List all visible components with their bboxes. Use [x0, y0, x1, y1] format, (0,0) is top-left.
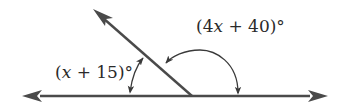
angle-diagram: (x + 15)° (4x + 40)° [0, 0, 342, 111]
large-angle-label-open: (4 [196, 16, 213, 36]
large-angle-label-rest: + 40)° [223, 16, 285, 36]
large-angle-label-variable: x [213, 16, 223, 36]
ray-line [103, 18, 192, 96]
small-angle-label-variable: x [62, 62, 72, 82]
small-angle-label: (x + 15)° [55, 64, 133, 81]
small-angle-label-open: ( [55, 62, 62, 82]
right-arrow-icon [308, 90, 328, 102]
diagram-graphics [0, 0, 342, 111]
small-angle-label-rest: + 15)° [71, 62, 133, 82]
large-angle-arc-end [166, 50, 238, 94]
left-arrow-icon [22, 90, 42, 102]
large-angle-label: (4x + 40)° [196, 18, 285, 35]
large-angle-arc [166, 50, 238, 93]
